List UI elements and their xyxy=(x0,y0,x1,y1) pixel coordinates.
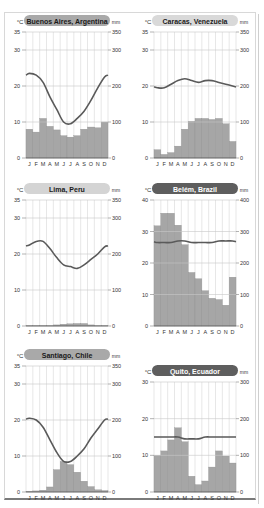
temp-tick-label: 20 xyxy=(142,416,148,422)
precip-bar xyxy=(53,470,60,492)
month-label: D xyxy=(103,329,107,335)
temp-tick-label: 35 xyxy=(14,363,20,369)
precip-bar xyxy=(188,476,195,492)
month-label: J xyxy=(69,495,72,501)
chart-title-pill: Quito, Ecuador xyxy=(152,365,238,376)
precip-bar xyxy=(81,129,88,158)
month-label: M xyxy=(41,329,46,335)
month-label: F xyxy=(35,329,39,335)
temp-tick-label: 35 xyxy=(14,197,20,203)
temp-tick-label: 20 xyxy=(142,260,148,266)
month-label: A xyxy=(75,495,79,501)
month-label: J xyxy=(28,329,31,335)
month-label: J xyxy=(156,161,159,167)
precip-bar xyxy=(88,127,95,158)
temp-tick-label: 35 xyxy=(14,29,20,35)
month-label: A xyxy=(75,161,79,167)
precip-tick-label: 350 xyxy=(112,197,121,203)
precip-bar xyxy=(26,129,33,158)
temp-tick-label: 10 xyxy=(14,119,20,125)
month-label: D xyxy=(231,161,235,167)
precip-bar xyxy=(168,440,175,492)
month-label: N xyxy=(96,161,100,167)
month-label: J xyxy=(190,161,193,167)
precip-bar xyxy=(188,121,195,158)
month-label: M xyxy=(182,329,187,335)
temp-unit-label: °C xyxy=(145,19,152,25)
precip-bar xyxy=(175,146,182,158)
precip-tick-label: 300 xyxy=(112,215,121,221)
precip-bar xyxy=(209,298,216,326)
temp-tick-label: 30 xyxy=(14,215,20,221)
precip-bar xyxy=(88,487,95,492)
precip-bar xyxy=(216,451,223,492)
chart-title: Caracas, Venezuela xyxy=(163,18,228,26)
precip-bar xyxy=(154,455,161,492)
precip-tick-label: 350 xyxy=(240,29,249,35)
precip-tick-label: 350 xyxy=(112,363,121,369)
month-label: A xyxy=(75,329,79,335)
precip-bar xyxy=(154,226,161,326)
precip-bar xyxy=(60,136,67,158)
temp-tick-label: 30 xyxy=(14,47,20,53)
month-label: J xyxy=(190,495,193,501)
precip-bar xyxy=(74,136,81,158)
temp-tick-label: 20 xyxy=(14,251,20,257)
month-label: M xyxy=(54,495,59,501)
precip-tick-label: 300 xyxy=(240,379,249,385)
precip-bar xyxy=(181,129,188,158)
month-label: D xyxy=(231,329,235,335)
precip-bar xyxy=(188,272,195,326)
precip-bar xyxy=(209,467,216,492)
chart-quito: °CmmQuito, Ecuador00101002020030300JFMAM… xyxy=(134,362,256,506)
precip-bar xyxy=(168,153,175,158)
chart-title: Buenos Aires, Argentina xyxy=(26,18,107,26)
precip-bar xyxy=(202,118,209,158)
month-label: M xyxy=(41,495,46,501)
precip-unit-label: mm xyxy=(240,369,248,375)
chart-title-pill: Lima, Peru xyxy=(24,183,110,194)
month-label: D xyxy=(103,495,107,501)
precip-tick-label: 0 xyxy=(112,155,115,161)
month-label: A xyxy=(48,495,52,501)
month-label: F xyxy=(35,495,39,501)
temp-unit-label: °C xyxy=(145,369,152,375)
month-label: A xyxy=(48,329,52,335)
temp-tick-label: 10 xyxy=(142,452,148,458)
month-label: N xyxy=(224,329,228,335)
temp-tick-label: 20 xyxy=(14,83,20,89)
month-label: N xyxy=(224,495,228,501)
month-label: N xyxy=(96,329,100,335)
precip-tick-label: 200 xyxy=(240,416,249,422)
precip-bar xyxy=(60,461,67,492)
month-label: S xyxy=(210,495,214,501)
month-label: F xyxy=(163,495,167,501)
chart-lima: °CmmLima, Peru0010100202003030035350JFMA… xyxy=(6,180,128,340)
precip-unit-label: mm xyxy=(240,187,248,193)
precip-bar xyxy=(47,487,54,492)
month-label: J xyxy=(62,495,65,501)
precip-tick-label: 200 xyxy=(112,83,121,89)
chart-belem: °CmmBelém, Brazil0010100202003030040400J… xyxy=(134,180,256,340)
month-label: N xyxy=(224,161,228,167)
temp-unit-label: °C xyxy=(145,187,152,193)
precip-bar xyxy=(40,118,47,158)
precip-bar xyxy=(195,485,202,492)
temp-unit-label: °C xyxy=(17,187,24,193)
month-label: J xyxy=(197,161,200,167)
temp-tick-label: 35 xyxy=(142,29,148,35)
month-label: J xyxy=(156,329,159,335)
precip-bar xyxy=(67,465,74,492)
month-label: M xyxy=(169,161,174,167)
month-label: A xyxy=(48,161,52,167)
month-label: J xyxy=(197,495,200,501)
temp-tick-label: 0 xyxy=(17,489,20,495)
temp-tick-label: 10 xyxy=(142,119,148,125)
chart-title-pill: Caracas, Venezuela xyxy=(152,15,238,26)
month-label: S xyxy=(82,329,86,335)
temp-tick-label: 0 xyxy=(145,489,148,495)
chart-santiago: °CmmSantiago, Chile001010020200303003535… xyxy=(6,346,128,506)
precip-bar xyxy=(161,451,168,492)
precip-bar xyxy=(209,119,216,158)
temp-tick-label: 0 xyxy=(17,323,20,329)
